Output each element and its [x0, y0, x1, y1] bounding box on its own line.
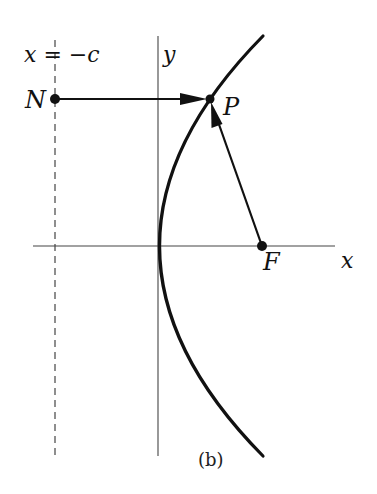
parabola-diagram	[0, 0, 377, 494]
point-F-label: F	[263, 250, 280, 274]
point-N-dot	[50, 94, 60, 104]
x-axis-label: x	[341, 250, 353, 272]
y-axis-label: y	[163, 44, 175, 66]
arrowhead-at-P-slanted	[211, 102, 223, 128]
arrowhead-at-P-horizontal	[180, 93, 207, 105]
point-P-label: P	[223, 95, 239, 119]
point-N-label: N	[25, 88, 46, 112]
point-P-dot	[206, 95, 215, 104]
figure-caption: (b)	[198, 451, 224, 469]
arrow-F-to-P	[216, 116, 262, 246]
directrix-label: x = −c	[24, 44, 100, 66]
